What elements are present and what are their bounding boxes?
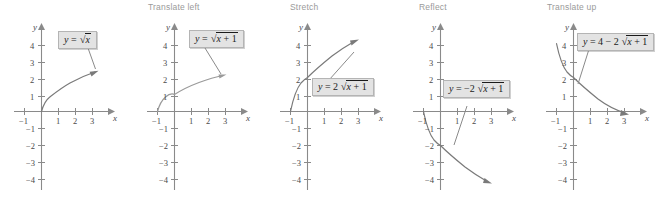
equation-label-reflect: y = −2 √x + 1 bbox=[443, 80, 510, 98]
axis-label-x: x bbox=[378, 113, 383, 123]
transformation-figure: y x −1 1 2 3 4 3 2 1 −1 −2 −3 −4 y = √x … bbox=[0, 0, 667, 200]
svg-text:2: 2 bbox=[206, 116, 210, 126]
svg-text:4: 4 bbox=[163, 41, 168, 51]
plot-translate-up: y x −1 1 2 3 4 3 2 1 −1 −2 −3 −4 bbox=[532, 0, 667, 200]
svg-text:2: 2 bbox=[30, 75, 34, 85]
panel-translate-left: Translate left y x −1 1 2 bbox=[133, 0, 266, 200]
axis-label-y: y bbox=[32, 22, 37, 32]
panel-reflect: Reflect y x −1 1 2 bbox=[399, 0, 532, 200]
svg-text:1: 1 bbox=[189, 116, 193, 126]
svg-text:−3: −3 bbox=[425, 158, 434, 168]
equation-label-stretch: y = 2 √x + 1 bbox=[312, 78, 374, 96]
svg-text:−2: −2 bbox=[26, 141, 35, 151]
svg-text:−1: −1 bbox=[292, 124, 301, 134]
svg-text:1: 1 bbox=[30, 92, 34, 102]
svg-text:−3: −3 bbox=[26, 158, 35, 168]
svg-text:−1: −1 bbox=[425, 124, 434, 134]
svg-text:−4: −4 bbox=[159, 175, 169, 185]
svg-text:−2: −2 bbox=[558, 141, 567, 151]
svg-text:4: 4 bbox=[30, 41, 35, 51]
axis-label-x: x bbox=[511, 113, 516, 123]
plot-base: y x −1 1 2 3 4 3 2 1 −1 −2 −3 −4 bbox=[0, 0, 133, 200]
axis-label-y: y bbox=[431, 22, 436, 32]
svg-text:1: 1 bbox=[296, 92, 300, 102]
svg-text:−2: −2 bbox=[159, 141, 168, 151]
svg-text:1: 1 bbox=[322, 116, 326, 126]
svg-text:−3: −3 bbox=[292, 158, 301, 168]
plot-stretch: y x −1 1 2 3 4 3 2 1 −1 −2 −3 −4 bbox=[266, 0, 399, 200]
svg-text:−2: −2 bbox=[425, 141, 434, 151]
svg-text:1: 1 bbox=[429, 92, 433, 102]
panel-stretch: Stretch y x −1 1 2 bbox=[266, 0, 399, 200]
panel-translate-up: Translate up y x −1 1 2 bbox=[532, 0, 667, 200]
svg-text:−4: −4 bbox=[558, 175, 568, 185]
svg-text:−1: −1 bbox=[558, 124, 567, 134]
svg-text:−1: −1 bbox=[26, 124, 35, 134]
svg-text:−2: −2 bbox=[292, 141, 301, 151]
svg-text:3: 3 bbox=[356, 116, 360, 126]
equation-label-translate-left: y = √x + 1 bbox=[189, 30, 244, 48]
equation-label-base: y = √x bbox=[58, 31, 97, 49]
svg-text:2: 2 bbox=[339, 116, 343, 126]
svg-text:−4: −4 bbox=[425, 175, 435, 185]
svg-text:2: 2 bbox=[429, 75, 433, 85]
svg-text:2: 2 bbox=[562, 75, 566, 85]
svg-text:−4: −4 bbox=[292, 175, 302, 185]
svg-text:−3: −3 bbox=[159, 158, 168, 168]
svg-text:3: 3 bbox=[429, 58, 433, 68]
svg-text:3: 3 bbox=[489, 116, 493, 126]
axis-label-x: x bbox=[245, 113, 250, 123]
svg-text:3: 3 bbox=[223, 116, 227, 126]
svg-text:2: 2 bbox=[73, 116, 77, 126]
equation-label-translate-up: y = 4 − 2 √x + 1 bbox=[577, 33, 654, 51]
axis-label-y: y bbox=[165, 22, 170, 32]
svg-text:4: 4 bbox=[562, 41, 567, 51]
svg-text:3: 3 bbox=[562, 58, 566, 68]
svg-text:−3: −3 bbox=[558, 158, 567, 168]
svg-text:1: 1 bbox=[455, 116, 459, 126]
svg-text:3: 3 bbox=[622, 116, 626, 126]
panel-base: y x −1 1 2 3 4 3 2 1 −1 −2 −3 −4 y = √x bbox=[0, 0, 133, 200]
svg-text:1: 1 bbox=[163, 92, 167, 102]
axis-label-x: x bbox=[644, 113, 649, 123]
svg-text:2: 2 bbox=[163, 75, 167, 85]
axis-label-x: x bbox=[112, 113, 117, 123]
svg-text:3: 3 bbox=[296, 58, 300, 68]
svg-text:4: 4 bbox=[296, 41, 301, 51]
plot-reflect: y x −1 1 2 3 4 3 2 1 −1 −2 −3 −4 bbox=[399, 0, 532, 200]
svg-text:3: 3 bbox=[90, 116, 94, 126]
svg-text:1: 1 bbox=[588, 116, 592, 126]
svg-text:1: 1 bbox=[562, 92, 566, 102]
svg-text:3: 3 bbox=[163, 58, 167, 68]
svg-text:−4: −4 bbox=[26, 175, 36, 185]
svg-text:2: 2 bbox=[472, 116, 476, 126]
svg-text:2: 2 bbox=[296, 75, 300, 85]
axis-label-y: y bbox=[298, 22, 303, 32]
svg-text:4: 4 bbox=[429, 41, 434, 51]
svg-text:2: 2 bbox=[605, 116, 609, 126]
svg-text:1: 1 bbox=[56, 116, 60, 126]
axis-label-y: y bbox=[564, 22, 569, 32]
svg-text:3: 3 bbox=[30, 58, 34, 68]
svg-text:−1: −1 bbox=[159, 124, 168, 134]
